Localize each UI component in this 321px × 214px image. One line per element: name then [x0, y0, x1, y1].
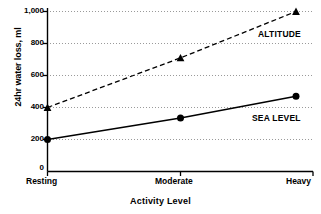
y-tick-label-600: 600 [31, 71, 44, 79]
data-point-altitude-moderate [177, 54, 185, 61]
y-tick-label-800: 800 [31, 39, 44, 47]
x-tick-label-moderate: Moderate [155, 176, 193, 186]
y-tick-label-0: 0 [40, 164, 44, 172]
series-label-altitude: ALTITUDE [258, 29, 301, 39]
data-point-sea-level-heavy [293, 93, 300, 100]
x-tick-label-resting: Resting [26, 176, 57, 186]
x-axis-title: Activity Level [0, 196, 321, 206]
y-tick-label-400: 400 [31, 103, 44, 111]
y-axis-title: 24hr water loss, ml [13, 0, 23, 137]
water-loss-line-chart: 24hr water loss, ml 1,000 800 600 400 20… [0, 0, 321, 214]
series-label-sea-level: SEA LEVEL [252, 113, 301, 123]
series-line-altitude [48, 12, 297, 108]
x-tick-label-heavy: Heavy [286, 176, 311, 186]
data-point-sea-level-resting [44, 136, 51, 143]
data-point-sea-level-moderate [177, 114, 184, 121]
series-markers-altitude [44, 8, 300, 111]
y-tick-label-200: 200 [31, 135, 44, 143]
y-tick-label-1000: 1,000 [24, 7, 44, 15]
